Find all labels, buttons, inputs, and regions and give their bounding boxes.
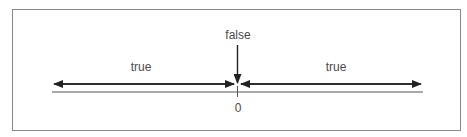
origin-zero-label: 0: [235, 101, 242, 115]
false-label: false: [225, 28, 250, 42]
number-line-diagram: [0, 0, 467, 137]
right-true-label: true: [326, 60, 347, 74]
left-true-label: true: [131, 60, 152, 74]
